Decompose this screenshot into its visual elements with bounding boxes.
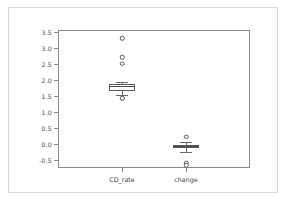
y-tick-mark xyxy=(54,128,58,129)
y-tick-mark xyxy=(54,112,58,113)
outlier-marker xyxy=(120,96,125,101)
y-tick-mark xyxy=(54,160,58,161)
chart-canvas: 3.53.02.52.01.51.00.50.0-0.5 CD_ratechan… xyxy=(0,0,288,202)
y-tick-label: 3.5 xyxy=(42,28,52,35)
median-line xyxy=(109,86,135,87)
y-tick-label: 1.5 xyxy=(42,92,52,99)
y-tick-mark xyxy=(54,96,58,97)
outlier-marker xyxy=(184,163,189,168)
y-tick-label: 0.0 xyxy=(42,140,52,147)
y-tick-mark xyxy=(54,64,58,65)
outlier-marker xyxy=(120,36,125,41)
x-tick-label-cd_rate: CD_rate xyxy=(109,176,135,184)
y-tick-label: 2.0 xyxy=(42,76,52,83)
y-tick-label: 0.5 xyxy=(42,124,52,131)
x-tick-mark xyxy=(186,168,187,172)
y-tick-label: 3.0 xyxy=(42,44,52,51)
cap-lower xyxy=(180,152,192,153)
y-tick-mark xyxy=(54,80,58,81)
cap-upper xyxy=(180,142,192,143)
y-tick-label: 2.5 xyxy=(42,60,52,67)
median-line xyxy=(173,146,199,147)
y-tick-label: -0.5 xyxy=(39,156,52,163)
outlier-marker xyxy=(120,55,125,60)
y-tick-label: 1.0 xyxy=(42,108,52,115)
outlier-marker xyxy=(184,135,189,140)
x-tick-label-change: change xyxy=(174,176,198,184)
y-tick-mark xyxy=(54,32,58,33)
outlier-marker xyxy=(120,61,125,66)
y-tick-mark xyxy=(54,144,58,145)
x-tick-mark xyxy=(122,168,123,172)
cap-upper xyxy=(116,82,128,83)
y-tick-mark xyxy=(54,48,58,49)
plot-area-frame xyxy=(58,30,250,168)
